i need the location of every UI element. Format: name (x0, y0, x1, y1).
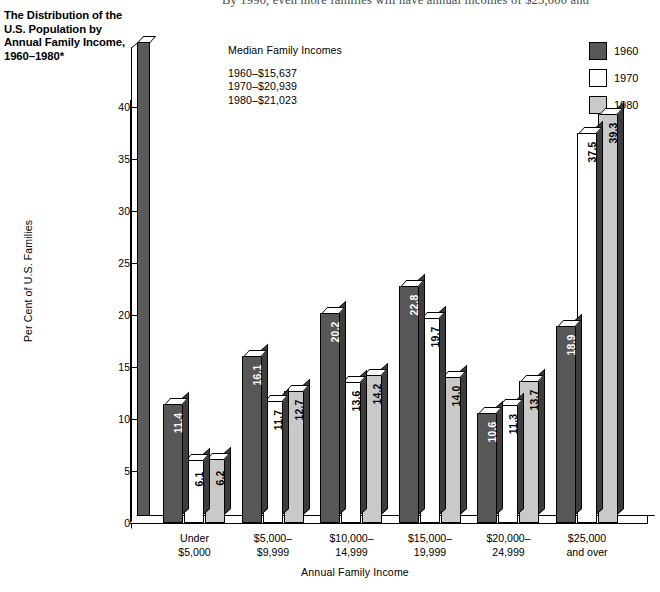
bar-1960-2: 16.1 (242, 356, 262, 523)
bar-side-face (517, 393, 524, 515)
bar-1960-3: 20.2 (320, 313, 340, 523)
y-tick-5 (130, 471, 137, 472)
y-tick-15 (130, 367, 137, 368)
y-axis-wall (137, 42, 150, 523)
bar-side-face (282, 389, 289, 515)
bar-value-label: 19.7 (430, 327, 441, 348)
bar-value-label: 39.3 (608, 123, 619, 144)
y-axis-line (130, 100, 131, 524)
y-tick-label-20: 20 (94, 310, 130, 320)
y-tick-35 (130, 159, 137, 160)
y-tick-40 (130, 107, 137, 108)
y-tick-label-15: 15 (94, 362, 130, 372)
median-incomes-box: Median Family Incomes 1960–$15,637 1970–… (228, 44, 342, 107)
bar-front-face: 10.6 (478, 414, 496, 522)
y-tick-label-wrap-30: 30 (86, 206, 130, 216)
bar-value-label: 10.6 (487, 421, 498, 442)
bar-front-face: 16.1 (243, 357, 261, 522)
y-tick-label-wrap-5: 5 (86, 466, 130, 476)
bar-front-face: 20.2 (321, 314, 339, 522)
bar-front-face: 18.9 (557, 327, 575, 522)
y-tick-label-5: 5 (94, 466, 130, 476)
bar-front-face: 22.8 (400, 287, 418, 522)
x-group-label-line-2: and over (529, 546, 645, 560)
bar-value-label: 16.1 (252, 364, 263, 385)
y-tick-label-10: 10 (94, 414, 130, 424)
bar-value-label: 37.5 (587, 141, 598, 162)
y-tick-label-wrap-40: 40 (86, 102, 130, 112)
bar-side-face (496, 400, 503, 515)
y-tick-label-wrap-25: 25 (86, 258, 130, 268)
y-tick-label-wrap-0: 0 (86, 518, 130, 528)
bar-1960-4: 22.8 (399, 286, 419, 523)
bar-1960-1: 11.4 (163, 404, 183, 523)
y-tick-label-wrap-35: 35 (86, 154, 130, 164)
bar-value-label: 6.1 (194, 471, 205, 486)
bar-side-face (617, 102, 624, 515)
bar-side-face (182, 392, 189, 515)
y-tick-label-wrap-20: 20 (86, 310, 130, 320)
bar-value-label: 12.7 (294, 399, 305, 420)
y-tick-label-25: 25 (94, 258, 130, 268)
y-tick-label-wrap-15: 15 (86, 362, 130, 372)
legend-item-1960: 1960 (589, 42, 638, 60)
bar-value-label: 14.2 (372, 384, 383, 405)
bar-value-label: 18.9 (566, 335, 577, 356)
bar-value-label: 14.0 (451, 386, 462, 407)
median-income-row-1970: 1970–$20,939 (228, 80, 342, 94)
median-income-row-1960: 1960–$15,637 (228, 67, 342, 81)
x-axis-label: Annual Family Income (270, 566, 440, 578)
bar-value-label: 11.3 (508, 414, 519, 434)
y-tick-label-30: 30 (94, 206, 130, 216)
bar-value-label: 22.8 (409, 294, 420, 315)
bar-value-label: 13.6 (351, 390, 362, 411)
bar-value-label: 13.7 (529, 389, 540, 410)
y-tick-label-40: 40 (94, 102, 130, 112)
median-incomes-heading: Median Family Incomes (228, 44, 342, 58)
bar-value-label: 20.2 (330, 321, 341, 342)
y-tick-25 (130, 263, 137, 264)
legend-label-1970: 1970 (614, 72, 638, 84)
legend-label-1960: 1960 (614, 45, 638, 57)
legend-item-1970: 1970 (589, 69, 638, 87)
bar-value-label: 6.2 (215, 470, 226, 485)
y-axis-label: Per Cent of U.S. Families (22, 196, 34, 366)
chart-baseline (130, 523, 648, 524)
bar-1960-5: 10.6 (477, 413, 497, 523)
bar-front-face: 11.4 (164, 405, 182, 522)
bar-value-label: 11.4 (173, 413, 184, 433)
y-tick-label-35: 35 (94, 154, 130, 164)
bar-side-face (596, 121, 603, 515)
x-group-label-6: $25,000and over (529, 532, 645, 559)
median-income-row-1980: 1980–$21,023 (228, 94, 342, 108)
x-group-label-line-1: $25,000 (529, 532, 645, 546)
legend-swatch-1960 (589, 42, 607, 60)
y-tick-10 (130, 419, 137, 420)
bar-1960-6: 18.9 (556, 326, 576, 523)
y-tick-label-wrap-10: 10 (86, 414, 130, 424)
bar-value-label: 11.7 (273, 410, 284, 430)
y-tick-20 (130, 315, 137, 316)
legend-swatch-1970 (589, 69, 607, 87)
y-tick-label-0: 0 (94, 518, 130, 528)
y-axis-wall-top (137, 36, 156, 43)
y-tick-30 (130, 211, 137, 212)
